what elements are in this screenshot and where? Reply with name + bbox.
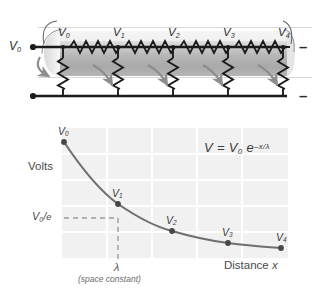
data-point-v3 [225, 240, 231, 246]
input-terminal-bottom [30, 93, 36, 99]
terminal-minus-top: – [299, 39, 307, 54]
curve-point-label-v3: V3 [222, 227, 233, 239]
circuit-node-label-v2: V2 [168, 27, 180, 40]
circuit-node-label-v0: V0 [58, 27, 70, 40]
data-point-v2 [169, 228, 175, 234]
circuit-node-label-v4: V4 [278, 27, 290, 40]
data-point-v1 [115, 201, 121, 207]
space-constant-caption: (space constant) [78, 275, 141, 284]
circuit-input-label: V0 [9, 40, 21, 53]
v0-over-e-label: V0/e [32, 211, 51, 223]
data-point-v0 [61, 139, 67, 145]
curve-point-label-v4: V4 [276, 232, 287, 244]
data-point-v4 [278, 245, 284, 251]
input-terminal-top [30, 44, 36, 50]
curve-point-label-v0: V0 [58, 126, 69, 138]
circuit-node-label-v1: V1 [113, 27, 125, 40]
curve-point-label-v1: V1 [112, 188, 123, 200]
cable-equation-figure: V0 V0 V1 V2 V3 V4 – – Volts Distance x V… [0, 0, 316, 297]
circuit-node-label-v3: V3 [223, 27, 235, 40]
terminal-minus-bottom: – [299, 88, 307, 103]
curve-point-label-v2: V2 [166, 215, 177, 227]
lambda-label: λ [114, 262, 119, 273]
y-axis-label: Volts [28, 161, 53, 173]
equation-annotation: V = V0 e–x/λ [204, 141, 270, 156]
x-axis-label: Distance x [224, 260, 278, 272]
